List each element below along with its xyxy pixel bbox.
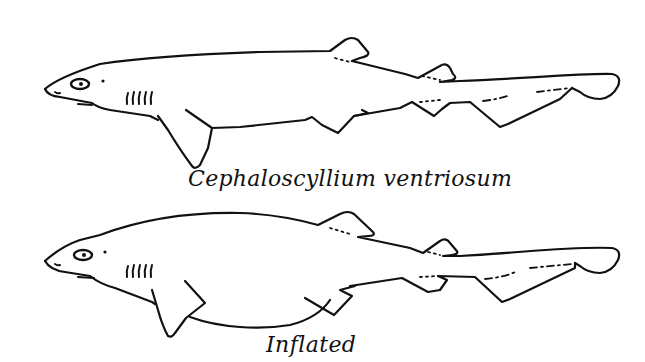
- caption-species-name: Cephaloscyllium ventriosum: [188, 166, 512, 191]
- shark-figure: Cephaloscyllium ventriosum Inflated: [0, 0, 645, 362]
- caption-inflated: Inflated: [266, 332, 356, 357]
